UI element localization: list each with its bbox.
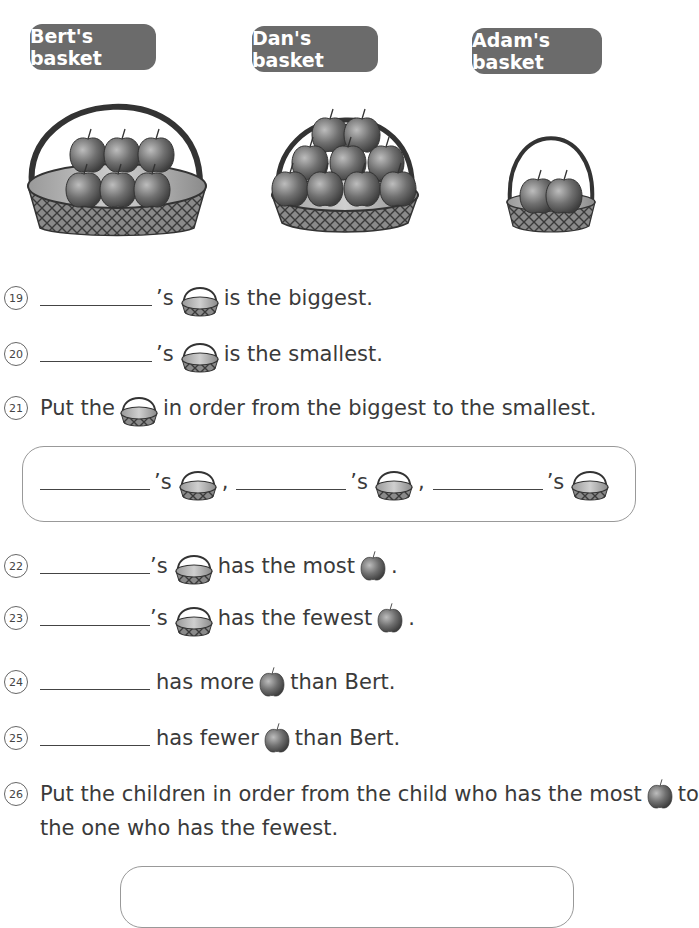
question-text-before: Put the <box>40 396 115 420</box>
basket-icon <box>374 461 414 503</box>
separator: , <box>222 470 229 494</box>
basket-icon <box>570 461 610 503</box>
question-23: 23 ’s has the fewest . <box>0 596 415 640</box>
possessive: ’s <box>150 606 168 630</box>
answer-blank-1[interactable] <box>40 488 150 490</box>
adam-basket-illustration <box>504 122 598 234</box>
question-text: is the biggest. <box>224 286 373 310</box>
apple-icon <box>359 550 387 582</box>
possessive: ’s <box>156 342 174 366</box>
possessive: ’s <box>154 470 172 494</box>
order-answer-row: ’s , ’s , ’s <box>0 460 614 504</box>
question-number: 22 <box>4 554 28 578</box>
dan-basket-illustration <box>270 95 420 235</box>
separator: , <box>418 470 425 494</box>
question-number: 19 <box>4 286 28 310</box>
question-text-line2: the one who has the fewest. <box>40 816 338 840</box>
apple-icon <box>263 722 291 754</box>
basket-icon <box>174 597 214 639</box>
possessive: ’s <box>547 470 565 494</box>
adam-basket-label: Adam's basket <box>472 28 602 74</box>
question-number: 26 <box>4 782 28 806</box>
basket-icon <box>178 461 218 503</box>
question-22: 22 ’s has the most . <box>0 544 398 588</box>
question-number: 23 <box>4 606 28 630</box>
answer-blank[interactable] <box>40 360 152 362</box>
possessive: ’s <box>150 554 168 578</box>
question-20: 20 ’s is the smallest. <box>0 334 383 374</box>
basket-icon <box>180 333 220 375</box>
period: . <box>408 606 415 630</box>
question-25: 25 has fewer than Bert. <box>0 716 400 760</box>
answer-blank[interactable] <box>40 304 152 306</box>
answer-blank[interactable] <box>40 572 150 574</box>
question-text-before: has fewer <box>156 726 259 750</box>
question-text-line1: Put the children in order from the child… <box>40 782 642 806</box>
question-text: has the fewest <box>218 606 373 630</box>
bert-basket-illustration <box>22 78 212 238</box>
basket-icon <box>119 387 159 429</box>
question-text: has the most <box>218 554 355 578</box>
answer-blank[interactable] <box>40 688 150 690</box>
question-21: 21 Put the in order from the biggest to … <box>0 386 596 430</box>
dan-basket-label: Dan's basket <box>252 26 378 72</box>
possessive: ’s <box>156 286 174 310</box>
question-number: 24 <box>4 670 28 694</box>
answer-blank[interactable] <box>40 744 150 746</box>
basket-icon <box>174 545 214 587</box>
question-text-after: than Bert. <box>295 726 400 750</box>
question-number: 25 <box>4 726 28 750</box>
question-26-line2: the one who has the fewest. <box>0 810 338 846</box>
question-text-line1-end: to <box>678 782 699 806</box>
question-text-before: has more <box>156 670 254 694</box>
question-24: 24 has more than Bert. <box>0 660 395 704</box>
apple-icon <box>258 666 286 698</box>
question-number: 21 <box>4 396 28 420</box>
question-text-after: than Bert. <box>290 670 395 694</box>
bert-basket-label: Bert's basket <box>30 24 156 70</box>
answer-blank-2[interactable] <box>236 488 346 490</box>
answer-blank-3[interactable] <box>433 488 543 490</box>
question-text: is the smallest. <box>224 342 383 366</box>
basket-icon <box>180 277 220 319</box>
apple-icon <box>376 602 404 634</box>
question-text-after: in order from the biggest to the smalles… <box>163 396 596 420</box>
children-order-answer-box[interactable] <box>120 866 574 928</box>
question-number: 20 <box>4 342 28 366</box>
question-19: 19 ’s is the biggest. <box>0 278 373 318</box>
apple-icon <box>646 778 674 810</box>
answer-blank[interactable] <box>40 624 150 626</box>
possessive: ’s <box>350 470 368 494</box>
period: . <box>391 554 398 578</box>
